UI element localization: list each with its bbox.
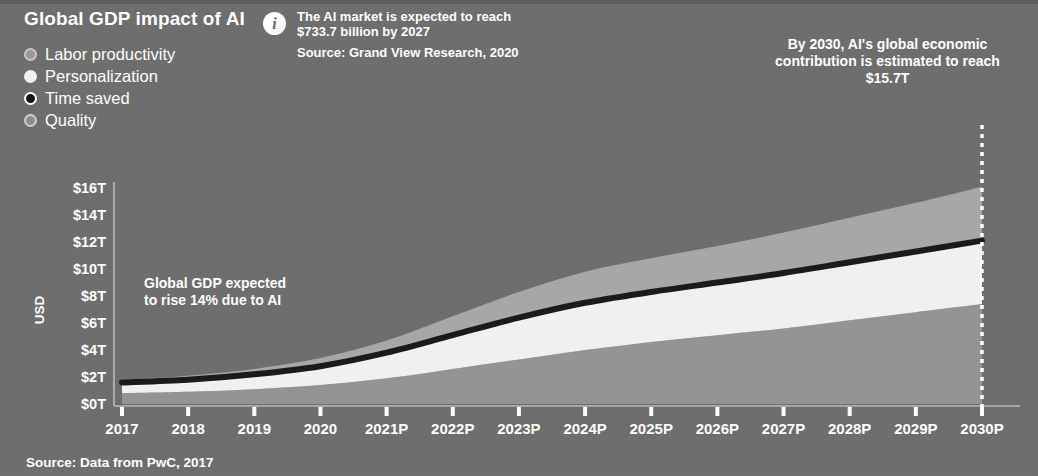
x-tick-label: 2025P [630,420,673,437]
x-axis-ticks: 20172018201920202021P2022P2023P2024P2025… [105,407,1003,437]
x-tick-label: 2021P [365,420,408,437]
x-tick-label: 2027P [762,420,805,437]
chart-annotation-line2: to rise 14% due to AI [144,292,281,308]
x-tick-label: 2023P [497,420,540,437]
chart-annotation-line1: Global GDP expected [144,275,286,291]
x-tick-label: 2029P [894,420,937,437]
x-tick-label: 2019 [238,420,271,437]
x-tick-label: 2018 [171,420,204,437]
footer-source: Source: Data from PwC, 2017 [26,455,214,470]
y-tick-label: $8T [81,288,106,304]
x-tick-label: 2022P [431,420,474,437]
y-tick-label: $12T [73,234,106,250]
y-axis-ticks: $16T$14T$12T$10T$8T$6T$4T$2T$0T [73,180,106,412]
y-tick-label: $0T [81,396,106,412]
x-tick-label: 2020 [304,420,337,437]
y-tick-label: $4T [81,342,106,358]
x-tick-label: 2026P [696,420,739,437]
y-tick-label: $14T [73,207,106,223]
chart-area: $16T$14T$12T$10T$8T$6T$4T$2T$0T 20172018… [0,0,1038,476]
y-tick-label: $16T [73,180,106,196]
stacked-area-chart: $16T$14T$12T$10T$8T$6T$4T$2T$0T 20172018… [0,0,1038,476]
x-tick-label: 2030P [960,420,1003,437]
y-axis-title: USD [32,296,47,325]
y-tick-label: $6T [81,315,106,331]
x-tick-label: 2017 [105,420,138,437]
x-tick-label: 2024P [563,420,606,437]
x-tick-label: 2028P [828,420,871,437]
y-tick-label: $2T [81,369,106,385]
y-tick-label: $10T [73,261,106,277]
